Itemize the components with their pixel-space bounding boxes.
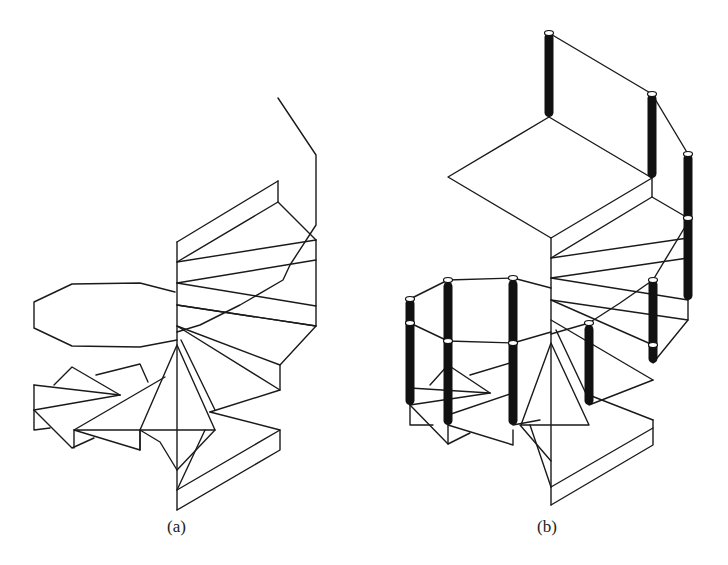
- railing-post: [684, 154, 693, 300]
- stair-edge-line: [448, 393, 513, 415]
- stair-edge-line: [34, 283, 177, 347]
- stair-edge-line: [549, 33, 688, 154]
- stair-edge-line: [74, 430, 140, 450]
- stair-edge-line: [410, 323, 551, 343]
- stair-edge-line: [470, 362, 513, 375]
- stair-edge-line: [551, 278, 688, 300]
- post-cap: [444, 278, 453, 283]
- panel-b-caption: (b): [537, 517, 557, 537]
- stair-edge-line: [177, 260, 316, 283]
- stair-edge-line: [653, 300, 688, 363]
- stair-edge-line: [177, 202, 316, 262]
- railing-post: [406, 299, 415, 405]
- stair-edge-line: [177, 430, 280, 490]
- post-cap: [648, 92, 657, 97]
- staircase-diagram: [0, 0, 728, 565]
- stair-edge-line: [177, 305, 316, 326]
- stair-edge-line: [551, 428, 653, 487]
- stair-edge-line: [448, 117, 652, 238]
- stair-edge-line: [448, 425, 513, 445]
- stair-edge-line: [177, 283, 316, 306]
- panel-a-caption: (a): [167, 517, 186, 537]
- stair-edge-line: [410, 278, 551, 299]
- stair-edge-line: [181, 340, 215, 410]
- stair-edge-line: [177, 430, 205, 490]
- stair-edge-line: [551, 320, 653, 380]
- stair-edge-line: [177, 412, 280, 510]
- railing-post: [509, 280, 518, 425]
- panel-b-staircase-with-posts: [406, 31, 693, 506]
- stair-edge-line: [177, 326, 280, 365]
- railing-post: [585, 325, 594, 405]
- stair-edge-line: [551, 420, 653, 505]
- post-cap: [509, 341, 518, 346]
- stair-edge-line: [652, 197, 688, 218]
- post-cap: [509, 276, 518, 281]
- stair-edge-line: [551, 258, 688, 278]
- stair-edge-line: [96, 364, 148, 382]
- stair-edge-line: [589, 395, 653, 420]
- stair-edge-line: [210, 240, 316, 412]
- stair-edge-line: [177, 240, 316, 262]
- stair-edge-line: [448, 365, 490, 393]
- stair-edge-line: [589, 380, 653, 405]
- railing-post: [648, 94, 657, 178]
- stair-edge-line: [521, 343, 589, 425]
- stair-edge-line: [34, 385, 120, 395]
- post-cap: [545, 31, 554, 36]
- post-cap: [406, 321, 415, 326]
- railing-post: [545, 33, 554, 117]
- post-cap: [406, 297, 415, 302]
- railing-post: [649, 280, 658, 363]
- panel-a-wireframe-staircase: [34, 98, 316, 510]
- post-cap: [684, 152, 693, 157]
- stair-edge-line: [549, 117, 652, 178]
- railing-post: [444, 282, 453, 425]
- stair-edge-line: [177, 98, 316, 332]
- post-cap: [444, 339, 453, 344]
- post-cap: [585, 321, 594, 326]
- stair-edge-line: [34, 395, 120, 410]
- post-cap: [684, 216, 693, 221]
- post-cap: [649, 343, 658, 348]
- stair-edge-line: [140, 430, 177, 470]
- post-cap: [649, 278, 658, 283]
- stair-edge-line: [530, 425, 551, 487]
